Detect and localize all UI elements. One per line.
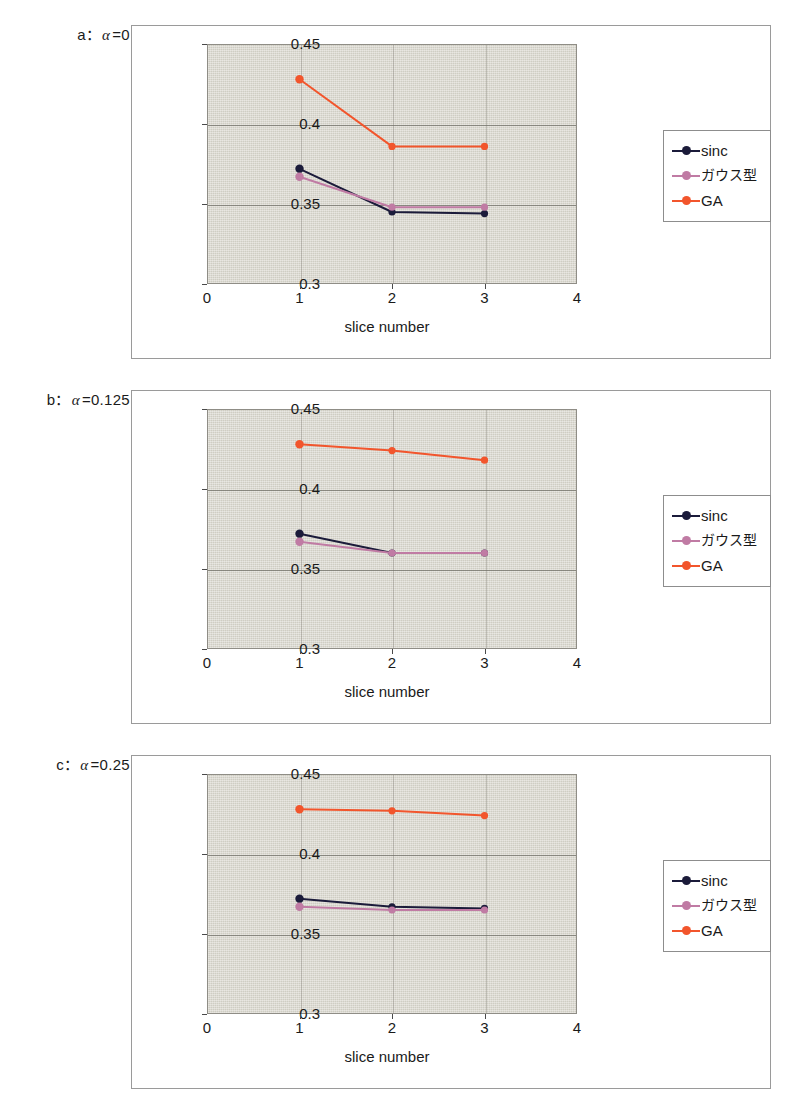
x-tick-label: 2 bbox=[372, 655, 412, 671]
data-point bbox=[295, 805, 303, 813]
legend-marker-icon bbox=[672, 898, 700, 914]
plot-wrapper: signal intensity (a.u.)0.30.350.40.45012… bbox=[132, 26, 772, 360]
x-tick-label: 4 bbox=[557, 290, 597, 306]
alpha-value: 0.125 bbox=[91, 391, 130, 408]
x-axis-title: slice number bbox=[192, 1048, 582, 1066]
legend-label: GA bbox=[700, 922, 723, 939]
legend-item[interactable]: GA bbox=[672, 918, 762, 943]
y-tick-mark bbox=[202, 649, 207, 650]
figure-root: a：α=0signal intensity (a.u.)0.30.350.40.… bbox=[0, 0, 792, 1107]
x-tick-label: 3 bbox=[465, 1020, 505, 1036]
legend: sincガウス型GA bbox=[663, 130, 771, 222]
x-tick-label: 2 bbox=[372, 1020, 412, 1036]
data-point bbox=[295, 440, 303, 448]
data-point bbox=[481, 549, 488, 556]
panel-caption-separator: ： bbox=[86, 26, 101, 43]
series-layer bbox=[207, 409, 577, 649]
panel-caption-separator: ： bbox=[55, 391, 70, 408]
panel-letter: c bbox=[56, 756, 64, 773]
data-point bbox=[295, 173, 303, 181]
data-point bbox=[295, 538, 303, 546]
legend-label: sinc bbox=[700, 507, 728, 524]
legend-item[interactable]: GA bbox=[672, 553, 762, 578]
series-gauss bbox=[295, 173, 488, 211]
data-point bbox=[295, 165, 303, 173]
panel-caption-c: c：α=0.25 bbox=[18, 756, 130, 774]
legend-dot bbox=[682, 146, 691, 155]
legend-marker-icon bbox=[672, 533, 700, 549]
equals-symbol: = bbox=[90, 756, 100, 773]
legend-dot bbox=[682, 511, 691, 520]
legend-marker-icon bbox=[672, 508, 700, 524]
legend-marker-icon bbox=[672, 873, 700, 889]
legend-marker-icon bbox=[672, 923, 700, 939]
alpha-symbol: α bbox=[79, 757, 89, 773]
legend-item[interactable]: GA bbox=[672, 188, 762, 213]
x-tick-mark bbox=[300, 649, 301, 654]
x-tick-label: 4 bbox=[557, 655, 597, 671]
plot-wrapper: signal intensity (a.u.)0.30.350.40.45012… bbox=[132, 756, 772, 1090]
data-point bbox=[481, 812, 488, 819]
legend-item[interactable]: sinc bbox=[672, 868, 762, 893]
panel-a: a：α=0signal intensity (a.u.)0.30.350.40.… bbox=[0, 18, 792, 368]
data-point bbox=[388, 143, 395, 150]
data-point bbox=[481, 906, 488, 913]
data-point bbox=[295, 903, 303, 911]
y-tick-mark bbox=[202, 284, 207, 285]
plot-wrapper: signal intensity (a.u.)0.30.350.40.45012… bbox=[132, 391, 772, 725]
x-tick-label: 3 bbox=[465, 290, 505, 306]
panel-caption-a: a：α=0 bbox=[18, 26, 130, 44]
x-tick-mark bbox=[485, 284, 486, 289]
legend-dot bbox=[682, 901, 691, 910]
legend-label: GA bbox=[700, 192, 723, 209]
legend-item[interactable]: sinc bbox=[672, 503, 762, 528]
x-tick-mark bbox=[392, 649, 393, 654]
legend-item[interactable]: ガウス型 bbox=[672, 163, 762, 188]
panel-caption-separator: ： bbox=[64, 756, 79, 773]
equals-symbol: = bbox=[81, 391, 91, 408]
legend-marker-icon bbox=[672, 168, 700, 184]
data-point bbox=[295, 530, 303, 538]
data-point bbox=[295, 75, 303, 83]
data-point bbox=[388, 906, 395, 913]
x-tick-mark bbox=[300, 284, 301, 289]
legend-item[interactable]: ガウス型 bbox=[672, 528, 762, 553]
legend-dot bbox=[682, 196, 691, 205]
x-tick-mark bbox=[300, 1014, 301, 1019]
x-tick-mark bbox=[392, 1014, 393, 1019]
series-ga bbox=[295, 75, 488, 150]
x-tick-mark bbox=[485, 1014, 486, 1019]
legend-label: sinc bbox=[700, 872, 728, 889]
series-layer bbox=[207, 44, 577, 284]
series-line bbox=[300, 79, 485, 146]
panel-frame-b: signal intensity (a.u.)0.30.350.40.45012… bbox=[131, 390, 771, 724]
x-tick-label: 0 bbox=[187, 1020, 227, 1036]
legend-item[interactable]: ガウス型 bbox=[672, 893, 762, 918]
legend: sincガウス型GA bbox=[663, 495, 771, 587]
x-axis-title: slice number bbox=[192, 318, 582, 336]
legend-label: ガウス型 bbox=[700, 532, 757, 549]
x-tick-label: 4 bbox=[557, 1020, 597, 1036]
panel-frame-a: signal intensity (a.u.)0.30.350.40.45012… bbox=[131, 25, 771, 359]
legend-marker-icon bbox=[672, 193, 700, 209]
legend-item[interactable]: sinc bbox=[672, 138, 762, 163]
series-gauss bbox=[295, 538, 488, 557]
x-axis-title: slice number bbox=[192, 683, 582, 701]
data-point bbox=[481, 457, 488, 464]
alpha-value: 0 bbox=[121, 26, 130, 43]
legend-label: sinc bbox=[700, 142, 728, 159]
legend-dot bbox=[682, 171, 691, 180]
x-tick-label: 1 bbox=[280, 290, 320, 306]
x-tick-label: 1 bbox=[280, 655, 320, 671]
series-ga bbox=[295, 805, 488, 819]
legend-label: GA bbox=[700, 557, 723, 574]
x-tick-mark bbox=[392, 284, 393, 289]
y-tick-mark bbox=[202, 1014, 207, 1015]
legend-dot bbox=[682, 536, 691, 545]
data-point bbox=[388, 204, 395, 211]
data-point bbox=[481, 210, 488, 217]
data-point bbox=[481, 143, 488, 150]
panel-caption-b: b：α=0.125 bbox=[18, 391, 130, 409]
panel-frame-c: signal intensity (a.u.)0.30.350.40.45012… bbox=[131, 755, 771, 1089]
legend-label: ガウス型 bbox=[700, 897, 757, 914]
